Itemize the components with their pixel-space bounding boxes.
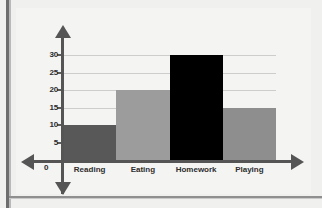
bar bbox=[170, 55, 223, 160]
bar bbox=[63, 125, 116, 160]
bar-series: ReadingEatingHomeworkPlaying bbox=[63, 8, 276, 194]
origin-tick-label: 0 bbox=[44, 163, 48, 172]
page-bottom-border-shadow bbox=[9, 198, 322, 199]
bar-chart: 51015202530 ReadingEatingHomeworkPlaying… bbox=[16, 8, 311, 194]
y-tick-label: 20 bbox=[38, 86, 58, 94]
y-axis-up-arrow-icon bbox=[55, 25, 71, 38]
x-axis-right-arrow-icon bbox=[291, 154, 304, 170]
category-label: Playing bbox=[223, 165, 276, 174]
y-tick-label: 25 bbox=[38, 69, 58, 77]
category-label: Reading bbox=[63, 165, 116, 174]
category-label: Eating bbox=[116, 165, 169, 174]
x-axis-line bbox=[30, 160, 300, 163]
y-tick-label: 15 bbox=[38, 104, 58, 112]
y-axis-line bbox=[61, 36, 64, 194]
y-tick-label: 10 bbox=[38, 121, 58, 129]
page-left-border-shadow bbox=[9, 0, 11, 208]
category-label: Homework bbox=[170, 165, 223, 174]
y-tick-label: 30 bbox=[38, 51, 58, 59]
y-axis-down-arrow-icon bbox=[55, 182, 71, 195]
plot-area: 51015202530 ReadingEatingHomeworkPlaying… bbox=[16, 8, 311, 194]
bar bbox=[116, 90, 169, 160]
x-axis-left-arrow-icon bbox=[21, 154, 34, 170]
y-tick-label: 5 bbox=[38, 139, 58, 147]
page-frame: 51015202530 ReadingEatingHomeworkPlaying… bbox=[0, 0, 322, 208]
bar bbox=[223, 108, 276, 161]
